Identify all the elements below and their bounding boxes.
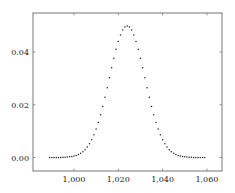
y-tick-label: 0.04 xyxy=(11,48,29,57)
y-tick-label: 0.00 xyxy=(11,154,29,163)
data-points xyxy=(49,25,206,158)
x-axis-ticks: 1,0001,0201,0401,060 xyxy=(63,13,219,184)
x-tick-label: 1,020 xyxy=(107,175,130,184)
y-axis-ticks: 0.000.020.04 xyxy=(11,48,222,163)
x-tick-label: 1,040 xyxy=(151,175,174,184)
x-tick-label: 1,000 xyxy=(63,175,86,184)
plot-frame xyxy=(33,13,222,171)
y-tick-label: 0.02 xyxy=(11,101,29,110)
x-tick-label: 1,060 xyxy=(195,175,218,184)
scatter-chart: 1,0001,0201,0401,060 0.000.020.04 xyxy=(0,0,235,193)
